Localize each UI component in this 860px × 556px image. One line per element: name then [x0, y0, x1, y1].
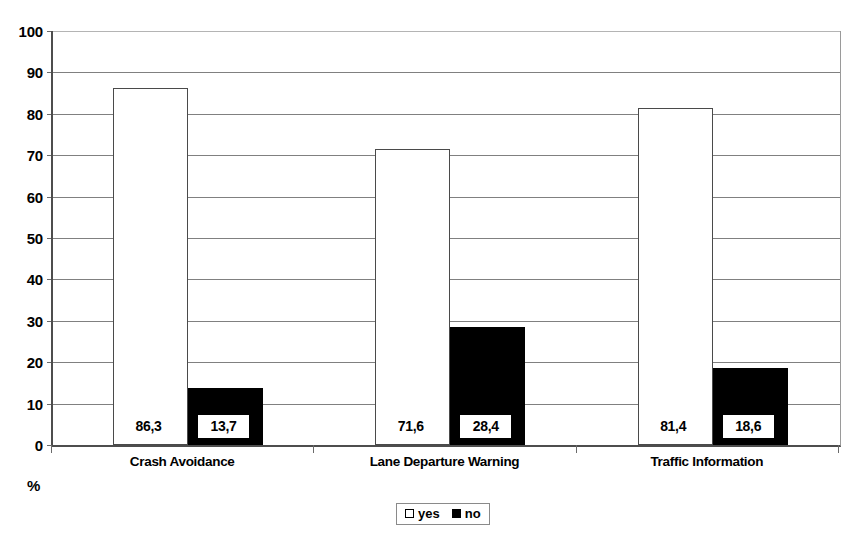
y-axis-tick-label: 0: [3, 438, 43, 453]
gridline: [53, 72, 840, 73]
category-axis-tick: [576, 445, 577, 453]
y-axis-tick-label: 100: [3, 24, 43, 39]
y-axis-tick-label: 80: [3, 107, 43, 122]
legend-label-yes: yes: [418, 507, 440, 520]
y-axis-tick-label: 50: [3, 231, 43, 246]
legend-label-no: no: [465, 507, 481, 520]
white-square-icon: [405, 509, 414, 518]
y-axis-tick-label: 60: [3, 190, 43, 205]
black-square-icon: [452, 509, 461, 518]
category-axis-tick: [313, 445, 314, 453]
bar-yes-3: [638, 108, 713, 445]
gridline: [53, 31, 840, 32]
legend-entry-no: no: [452, 507, 481, 520]
plot-area: [51, 31, 841, 447]
y-axis-tick-label: 90: [3, 65, 43, 80]
category-axis-tick: [838, 445, 839, 453]
bar-value-label: 28,4: [460, 415, 511, 438]
chart-legend: yes no: [396, 503, 490, 525]
bar-value-label: 71,6: [373, 415, 448, 438]
bar-value-label: 18,6: [723, 415, 774, 438]
category-label: Traffic Information: [576, 455, 838, 470]
y-axis-tick-label: 30: [3, 314, 43, 329]
y-axis-tick-label: 40: [3, 272, 43, 287]
bar-yes-2: [375, 149, 450, 445]
bar-value-label: 13,7: [198, 415, 249, 438]
category-label: Crash Avoidance: [51, 455, 313, 470]
y-axis-tick-label: 70: [3, 148, 43, 163]
bar-value-label: 86,3: [111, 415, 186, 438]
legend-entry-yes: yes: [405, 507, 440, 520]
bar-yes-1: [113, 88, 188, 445]
y-axis-tick-label: 10: [3, 397, 43, 412]
y-axis-tick-label: 20: [3, 355, 43, 370]
bar-value-label: 81,4: [636, 415, 711, 438]
y-axis-unit-label: %: [27, 478, 40, 493]
bar-chart: 0102030405060708090100 Crash AvoidanceLa…: [0, 0, 860, 556]
category-axis-tick: [51, 445, 52, 453]
category-label: Lane Departure Warning: [313, 455, 575, 470]
